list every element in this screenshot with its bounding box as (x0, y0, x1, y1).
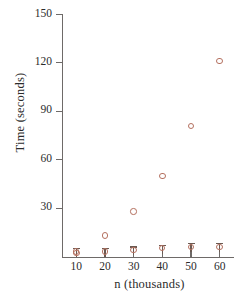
y-axis-spine (62, 14, 63, 258)
marker-ring (188, 244, 194, 250)
x-tick-label: 20 (90, 260, 120, 272)
marker-ring (130, 247, 136, 253)
x-axis-spine (62, 257, 234, 258)
y-tick-label: 30 (24, 200, 52, 212)
y-tick-label: 90 (24, 103, 52, 115)
y-tick-mark (56, 159, 62, 160)
data-point-upper (130, 208, 136, 214)
data-point-lower (159, 245, 166, 254)
marker-ring (159, 245, 165, 251)
x-tick-label: 60 (205, 260, 235, 272)
y-tick-label: 150 (24, 7, 52, 19)
y-tick-mark (56, 14, 62, 15)
x-tick-label: 50 (176, 260, 206, 272)
x-tick-label: 10 (61, 260, 91, 272)
data-point-lower (130, 246, 137, 255)
data-point-lower (102, 248, 109, 257)
y-tick-label: 60 (24, 152, 52, 164)
marker-ring (216, 244, 222, 250)
x-tick-label: 40 (147, 260, 177, 272)
y-tick-label: 120 (24, 55, 52, 67)
data-point-upper (102, 232, 108, 238)
data-point-lower (216, 243, 223, 252)
plot-area: 306090120150 102030405060 (0, 0, 251, 299)
data-point-upper (188, 123, 194, 129)
scatter-chart-figure: Time (seconds) n (thousands) 30609012015… (0, 0, 251, 299)
data-point-lower (188, 243, 195, 252)
x-tick-label: 30 (119, 260, 149, 272)
marker-ring (102, 248, 108, 254)
data-point-upper (73, 250, 79, 256)
y-tick-mark (56, 208, 62, 209)
data-point-upper (216, 58, 222, 64)
data-point-upper (159, 173, 165, 179)
y-tick-mark (56, 62, 62, 63)
y-tick-mark (56, 111, 62, 112)
